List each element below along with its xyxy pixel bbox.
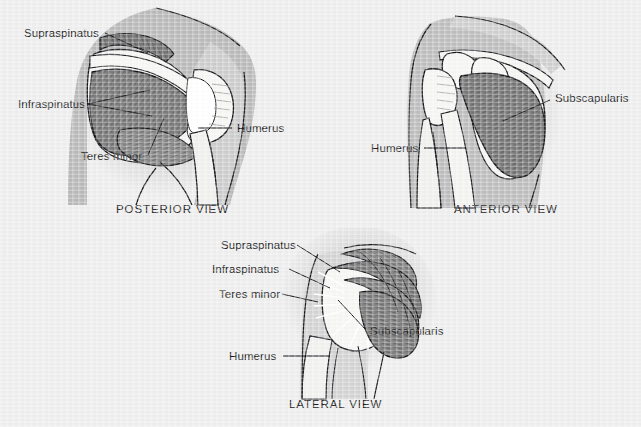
anatomy-illustration-page: Supraspinatus Infraspinatus Teres minor … (0, 0, 641, 427)
anterior-label-subscapularis: Subscapularis (555, 92, 629, 104)
posterior-label-humerus: Humerus (237, 122, 284, 134)
lateral-view-figure (272, 228, 447, 400)
posterior-view-caption: POSTERIOR VIEW (116, 203, 229, 215)
posterior-label-supraspinatus: Supraspinatus (24, 27, 99, 39)
anterior-label-humerus: Humerus (371, 142, 418, 154)
lateral-label-infraspinatus: Infraspinatus (212, 263, 279, 275)
lateral-label-subscapularis: Subscapularis (370, 325, 444, 337)
lateral-view-caption: LATERAL VIEW (289, 398, 382, 410)
posterior-label-infraspinatus: Infraspinatus (18, 98, 85, 110)
anterior-view-figure (395, 14, 575, 209)
lateral-label-humerus: Humerus (229, 350, 276, 362)
lateral-label-supraspinatus: Supraspinatus (221, 239, 296, 251)
lateral-label-teres-minor: Teres minor (219, 288, 280, 300)
posterior-label-teres-minor: Teres minor (81, 150, 142, 162)
anterior-view-caption: ANTERIOR VIEW (454, 203, 558, 215)
